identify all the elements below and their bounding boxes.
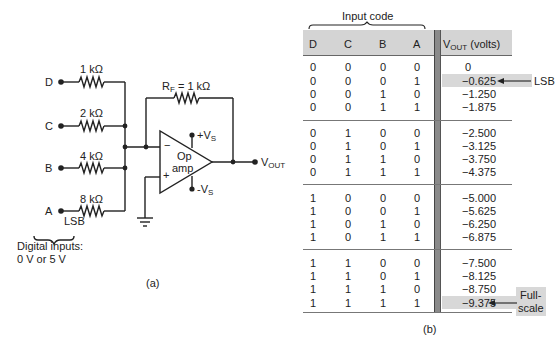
opamp-label-line1: Op [177, 150, 192, 162]
cell-d: 1 [306, 205, 320, 217]
cell-c: 0 [341, 218, 355, 230]
cell-d: 1 [306, 218, 320, 230]
cell-d: 0 [306, 166, 320, 178]
cell-vout: −8.750 [448, 283, 496, 295]
cell-c: 1 [341, 270, 355, 282]
cell-vout: −7.500 [448, 257, 496, 269]
table-vertical-divider [434, 30, 441, 313]
cell-d: 0 [306, 140, 320, 152]
cell-d: 0 [306, 153, 320, 165]
cell-vout: −5.000 [448, 192, 496, 204]
feedback-resistor-icon [174, 93, 199, 103]
cell-c: 1 [341, 297, 355, 309]
cell-vout: −3.125 [448, 140, 496, 152]
caption-b: (b) [423, 323, 436, 335]
cell-a: 1 [410, 75, 424, 87]
cell-b: 1 [376, 218, 390, 230]
cell-vout: −3.750 [448, 153, 496, 165]
cell-c: 0 [341, 88, 355, 100]
cell-b: 1 [376, 88, 390, 100]
resistor-label-b: 4 kΩ [80, 150, 103, 162]
header-b: B [379, 38, 386, 50]
positive-supply-label: +VS [197, 129, 216, 143]
cell-d: 0 [306, 101, 320, 113]
cell-a: 0 [410, 218, 424, 230]
negative-supply-label: -VS [197, 183, 213, 197]
cell-b: 1 [376, 297, 390, 309]
cell-b: 0 [376, 257, 390, 269]
resistor-4k-icon [79, 163, 104, 173]
cell-d: 1 [306, 270, 320, 282]
header-d: D [309, 38, 317, 50]
cell-b: 1 [376, 283, 390, 295]
digital-inputs-label-line1: Digital inputs: [17, 240, 83, 252]
resistor-label-c: 2 kΩ [80, 107, 103, 119]
cell-d: 0 [306, 127, 320, 139]
resistor-1k-icon [79, 77, 104, 87]
cell-vout: −6.875 [448, 231, 496, 243]
cell-a: 1 [410, 270, 424, 282]
cell-d: 1 [306, 192, 320, 204]
cell-a: 1 [410, 297, 424, 309]
input-label-d: D [45, 76, 53, 88]
resistor-2k-icon [79, 121, 104, 131]
input-label-c: C [45, 120, 53, 132]
cell-vout: −4.375 [448, 166, 496, 178]
cell-d: 1 [306, 231, 320, 243]
cell-a: 0 [410, 192, 424, 204]
cell-c: 0 [341, 192, 355, 204]
cell-b: 0 [376, 75, 390, 87]
cell-d: 1 [306, 297, 320, 309]
cell-vout: −1.250 [448, 88, 496, 100]
cell-a: 0 [410, 61, 424, 73]
cell-d: 0 [306, 75, 320, 87]
cell-a: 1 [410, 231, 424, 243]
cell-a: 1 [410, 166, 424, 178]
cell-vout: −2.500 [448, 127, 496, 139]
vout-label: VOUT [261, 156, 285, 170]
cell-c: 0 [341, 231, 355, 243]
cell-c: 1 [341, 140, 355, 152]
header-c: C [344, 38, 352, 50]
fullscale-annotation-line2: scale [518, 302, 544, 314]
cell-b: 0 [376, 205, 390, 217]
input-label-a: A [45, 205, 52, 217]
cell-b: 0 [376, 127, 390, 139]
cell-c: 0 [341, 75, 355, 87]
cell-a: 1 [410, 205, 424, 217]
cell-vout: −5.625 [448, 205, 496, 217]
group-separator [303, 120, 512, 121]
opamp-label-line2: amp [172, 162, 193, 174]
cell-b: 1 [376, 153, 390, 165]
cell-d: 1 [306, 257, 320, 269]
cell-vout: −8.125 [448, 270, 496, 282]
group-separator [303, 249, 512, 250]
cell-a: 1 [410, 101, 424, 113]
resistor-label-a: 8 kΩ [80, 193, 103, 205]
cell-a: 1 [410, 140, 424, 152]
cell-c: 1 [341, 283, 355, 295]
input-label-b: B [45, 162, 52, 174]
cell-b: 1 [376, 101, 390, 113]
cell-vout: −1.875 [448, 101, 496, 113]
lsb-input-label: LSB [64, 215, 85, 227]
cell-a: 0 [410, 88, 424, 100]
fullscale-arrow-icon [488, 298, 518, 308]
cell-vout: −6.250 [448, 218, 496, 230]
inverting-input-sign: − [164, 139, 170, 151]
cell-c: 0 [341, 101, 355, 113]
cell-a: 0 [410, 283, 424, 295]
cell-b: 0 [376, 61, 390, 73]
cell-d: 0 [306, 61, 320, 73]
lsb-annotation: LSB [534, 75, 555, 87]
caption-a: (a) [146, 277, 159, 289]
input-code-brace-icon [308, 21, 430, 30]
feedback-resistor-label: RF = 1 kΩ [162, 80, 210, 94]
cell-d: 1 [306, 283, 320, 295]
cell-b: 1 [376, 166, 390, 178]
cell-d: 0 [306, 88, 320, 100]
lsb-arrow-icon [497, 76, 533, 86]
cell-c: 0 [341, 61, 355, 73]
noninverting-input-sign: + [163, 169, 169, 181]
cell-b: 0 [376, 270, 390, 282]
